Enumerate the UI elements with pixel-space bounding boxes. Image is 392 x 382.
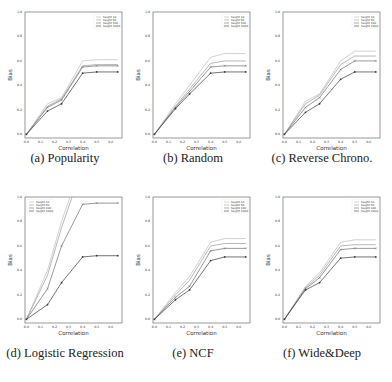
series-line (284, 257, 375, 319)
y-tick-label: 0.2 (275, 293, 280, 297)
x-tick-label: 0.0 (282, 325, 287, 329)
x-tick-label: 0.5 (352, 325, 357, 329)
series-line (284, 245, 375, 320)
data-point-marker (284, 318, 286, 320)
legend-label: height 1000 (361, 209, 378, 213)
data-point-marker (354, 256, 356, 258)
data-point-marker (375, 256, 377, 258)
y-tick-label: 0.6 (275, 244, 280, 248)
x-tick-label: 0.2 (310, 325, 315, 329)
chart-panel: 0.00.20.40.60.81.00.00.10.20.30.40.50.6C… (0, 0, 392, 382)
series-line (284, 248, 375, 319)
y-axis-label: Bias (265, 254, 271, 266)
subfigure-caption: (f) Wide&Deep (252, 346, 392, 361)
x-tick-label: 0.4 (338, 325, 343, 329)
data-point-marker (340, 257, 342, 259)
plot-frame (283, 197, 380, 323)
series-line (284, 240, 375, 320)
data-point-marker (305, 289, 307, 291)
y-tick-label: 0.0 (275, 317, 280, 321)
y-tick-label: 0.8 (275, 219, 280, 223)
y-tick-label: 1.0 (275, 195, 280, 199)
line-chart: 0.00.20.40.60.81.00.00.10.20.30.40.50.6C… (0, 0, 392, 382)
x-tick-label: 0.3 (324, 325, 329, 329)
x-axis-label: Correlation (316, 330, 347, 336)
data-point-marker (319, 282, 321, 284)
x-tick-label: 0.6 (366, 325, 371, 329)
y-tick-label: 0.4 (275, 268, 280, 272)
x-tick-label: 0.1 (296, 325, 301, 329)
data-point-marker (319, 277, 321, 279)
